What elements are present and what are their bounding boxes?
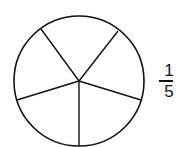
fraction-numerator: 1 <box>159 62 176 79</box>
fraction-label: 1 5 <box>159 62 176 100</box>
fraction-denominator: 5 <box>159 83 176 100</box>
fraction-circle-diagram <box>0 0 176 147</box>
